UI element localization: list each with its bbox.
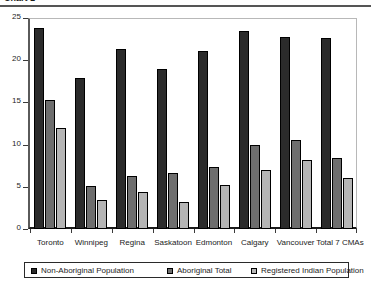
bar[interactable] (75, 78, 85, 229)
y-axis-tick: 25 (0, 18, 28, 19)
y-axis-tick: 20 (0, 60, 28, 61)
y-axis: 0510152025 (0, 0, 28, 291)
bar[interactable] (239, 31, 249, 229)
y-axis-tick: 10 (0, 145, 28, 146)
y-axis-tick-label: 15 (12, 96, 21, 106)
bar[interactable] (127, 176, 137, 229)
bar[interactable] (138, 192, 148, 229)
x-axis-tick-label: Winnipeg (71, 238, 112, 248)
bar[interactable] (343, 178, 353, 229)
legend-item[interactable]: Non-Aboriginal Population (31, 265, 134, 277)
bar-group (234, 18, 275, 229)
x-axis-tick-mark (234, 229, 235, 233)
bar[interactable] (321, 38, 331, 229)
bar-group (153, 18, 194, 229)
bar[interactable] (198, 51, 208, 229)
bar[interactable] (332, 158, 342, 229)
bar-group (71, 18, 112, 229)
bar[interactable] (209, 167, 219, 229)
bar-group (275, 18, 316, 229)
y-axis-tick-mark (23, 229, 28, 230)
chart-legend: Non-Aboriginal PopulationAboriginal Tota… (24, 262, 349, 278)
bar[interactable] (280, 37, 290, 229)
y-axis-tick-label: 5 (17, 181, 21, 191)
legend-label: Registered Indian Population (261, 266, 364, 276)
x-axis-tick-label: Regina (112, 238, 153, 248)
x-axis-tick-mark (30, 229, 31, 233)
x-axis-tick-mark (356, 229, 357, 233)
bar[interactable] (86, 186, 96, 229)
x-axis-tick-label: Toronto (30, 238, 71, 248)
x-axis-tick-mark (275, 229, 276, 233)
y-axis-tick: 15 (0, 102, 28, 103)
x-axis-tick-label: Calgary (234, 238, 275, 248)
x-axis: TorontoWinnipegReginaSaskatoonEdmontonCa… (30, 229, 357, 251)
legend-swatch-icon (251, 268, 257, 274)
bar-group (316, 18, 357, 229)
x-axis-tick-mark (71, 229, 72, 233)
title-divider (0, 5, 371, 7)
x-axis-tick-label: Saskatoon (153, 238, 194, 248)
x-axis-tick-mark (316, 229, 317, 233)
bars-layer (30, 18, 357, 229)
y-axis-tick-label: 25 (12, 12, 21, 22)
bar[interactable] (116, 49, 126, 229)
legend-item[interactable]: Registered Indian Population (251, 265, 364, 277)
bar-group (112, 18, 153, 229)
bar[interactable] (179, 202, 189, 229)
x-axis-tick-mark (153, 229, 154, 233)
y-axis-tick-label: 0 (17, 223, 21, 233)
bar-group (30, 18, 71, 229)
bar[interactable] (97, 200, 107, 229)
x-axis-tick-mark (194, 229, 195, 233)
x-axis-tick-label: Vancouver (275, 238, 316, 248)
bar[interactable] (261, 170, 271, 229)
bar[interactable] (302, 160, 312, 229)
bar[interactable] (56, 128, 66, 229)
legend-label: Non-Aboriginal Population (41, 266, 134, 276)
y-axis-tick: 0 (0, 229, 28, 230)
y-axis-tick-label: 20 (12, 54, 21, 64)
legend-item[interactable]: Aboriginal Total (167, 265, 232, 277)
bar[interactable] (157, 69, 167, 229)
x-axis-tick-mark (112, 229, 113, 233)
bar-group (194, 18, 235, 229)
bar[interactable] (250, 145, 260, 229)
bar[interactable] (291, 140, 301, 229)
bar[interactable] (34, 28, 44, 229)
bar[interactable] (220, 185, 230, 229)
bar[interactable] (168, 173, 178, 229)
legend-swatch-icon (167, 268, 173, 274)
x-axis-tick-label: Edmonton (194, 238, 235, 248)
bar[interactable] (45, 100, 55, 229)
legend-label: Aboriginal Total (177, 266, 232, 276)
y-axis-tick: 5 (0, 187, 28, 188)
legend-swatch-icon (31, 268, 37, 274)
x-axis-tick-label: Total 7 CMAs (316, 238, 357, 248)
chart-page: Chart 1 0510152025 TorontoWinnipegRegina… (0, 0, 371, 291)
y-axis-tick-label: 10 (12, 139, 21, 149)
